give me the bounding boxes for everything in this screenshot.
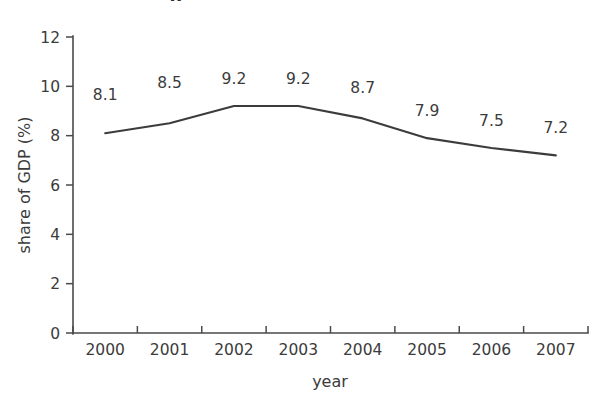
point-label-2003: 9.2 <box>286 70 311 88</box>
y-tick-label-2: 2 <box>50 275 60 293</box>
y-tick-label-4: 4 <box>50 226 60 244</box>
point-label-2001: 8.5 <box>157 74 182 92</box>
x-tick-label-2005: 2005 <box>407 341 446 359</box>
y-axis-tick-labels: 024681012 <box>40 29 60 343</box>
y-tick-label-12: 12 <box>40 29 60 47</box>
point-label-2002: 9.2 <box>222 70 247 88</box>
y-tick-label-0: 0 <box>50 325 60 343</box>
x-axis: 20002001200220032004200520062007 <box>73 326 588 359</box>
point-label-2000: 8.1 <box>93 86 118 104</box>
x-tick-label-2006: 2006 <box>472 341 511 359</box>
y-tick-label-8: 8 <box>50 127 60 145</box>
x-tick-label-2001: 2001 <box>150 341 189 359</box>
x-tick-label-2000: 2000 <box>85 341 124 359</box>
chart-figure: g 024681012 2000200120022003200420052006… <box>0 0 604 397</box>
y-axis: 024681012 <box>40 29 73 343</box>
point-label-2004: 8.7 <box>350 79 375 97</box>
x-tick-label-2002: 2002 <box>214 341 253 359</box>
y-tick-label-10: 10 <box>40 78 60 96</box>
y-axis-title: share of GDP (%) <box>15 116 34 253</box>
y-axis-ticks <box>66 37 73 333</box>
point-label-2006: 7.5 <box>479 112 504 130</box>
x-tick-label-2003: 2003 <box>279 341 318 359</box>
y-tick-label-6: 6 <box>50 177 60 195</box>
x-tick-label-2004: 2004 <box>343 341 382 359</box>
x-axis-ticks <box>73 326 588 333</box>
x-tick-label-2007: 2007 <box>536 341 575 359</box>
x-axis-tick-labels: 20002001200220032004200520062007 <box>85 341 575 359</box>
point-label-2007: 7.2 <box>543 119 568 137</box>
point-label-2005: 7.9 <box>415 102 440 120</box>
x-axis-title: year <box>312 372 348 391</box>
data-point-labels: 8.18.59.29.28.77.97.57.2 <box>93 70 568 137</box>
line-chart-canvas: 024681012 200020012002200320042005200620… <box>0 0 604 397</box>
